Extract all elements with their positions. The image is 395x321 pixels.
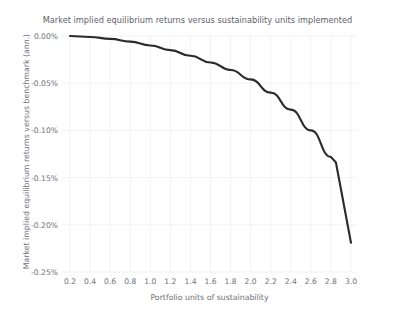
y-tick-label-3: -0.15% [2,173,58,182]
x-tick-label-12: 2.6 [305,277,317,286]
x-tick-label-11: 2.4 [285,277,297,286]
x-tick-label-14: 3.0 [345,277,357,286]
y-axis-tick-labels: 0.00%-0.05%-0.10%-0.15%-0.20%-0.25% [0,0,58,321]
x-tick-label-6: 1.4 [184,277,196,286]
y-tick-label-4: -0.20% [2,220,58,229]
plot-area [62,36,357,272]
y-tick-label-5: -0.25% [2,268,58,277]
x-tick-label-3: 0.8 [124,277,136,286]
x-tick-label-7: 1.6 [204,277,216,286]
gridlines [62,36,357,272]
x-tick-label-9: 2.0 [245,277,257,286]
x-tick-label-0: 0.2 [64,277,76,286]
y-tick-label-1: -0.05% [2,79,58,88]
x-tick-label-10: 2.2 [265,277,277,286]
series-plot [62,36,357,272]
x-tick-label-4: 1.0 [144,277,156,286]
y-tick-label-2: -0.10% [2,126,58,135]
y-tick-label-0: 0.00% [2,32,58,41]
x-axis-label: Portfolio units of sustainability [62,293,357,302]
x-tick-label-2: 0.6 [104,277,116,286]
chart-figure: Market implied equilibrium returns versu… [0,0,395,321]
x-tick-label-13: 2.8 [325,277,337,286]
x-tick-label-8: 1.8 [225,277,237,286]
x-tick-label-1: 0.4 [84,277,96,286]
x-axis-tick-labels: 0.20.40.60.81.01.21.41.61.82.02.22.42.62… [62,277,357,291]
x-tick-label-5: 1.2 [164,277,176,286]
chart-title: Market implied equilibrium returns versu… [0,15,395,25]
